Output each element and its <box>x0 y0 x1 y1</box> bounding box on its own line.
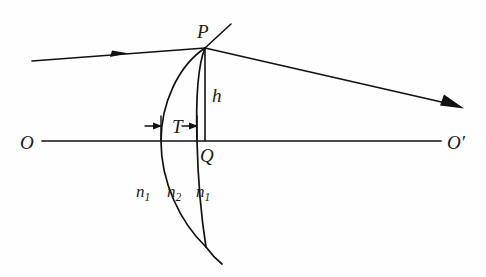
refracted-ray-arrowhead-icon <box>440 95 464 109</box>
label-point-p: P <box>196 21 209 42</box>
diagram-canvas: O O′ P Q h T n1 n2 n1 <box>0 0 486 277</box>
label-index-outer-left: n1 <box>136 182 150 203</box>
optics-diagram-figure: O O′ P Q h T n1 n2 n1 <box>0 0 486 277</box>
label-index-outer-right-base: n <box>196 182 205 201</box>
label-index-outer-left-base: n <box>136 182 145 201</box>
lens-edge-tail-curve <box>206 247 222 264</box>
label-index-outer-right: n1 <box>196 182 210 203</box>
label-object-axis-left: O <box>20 132 34 153</box>
incident-ray-arrowhead-icon <box>110 50 128 57</box>
label-object-axis-right: O′ <box>447 132 466 153</box>
refracted-ray-line <box>205 48 459 106</box>
label-index-inner: n2 <box>167 182 182 203</box>
label-point-q: Q <box>200 145 214 166</box>
label-index-outer-left-subscript: 1 <box>145 191 151 203</box>
label-height-h: h <box>212 85 222 106</box>
label-index-outer-right-subscript: 1 <box>205 191 211 203</box>
label-thickness-t: T <box>172 116 184 137</box>
label-index-inner-subscript: 2 <box>176 191 182 203</box>
label-index-inner-base: n <box>167 182 176 201</box>
incident-ray-extension-line <box>205 24 231 48</box>
